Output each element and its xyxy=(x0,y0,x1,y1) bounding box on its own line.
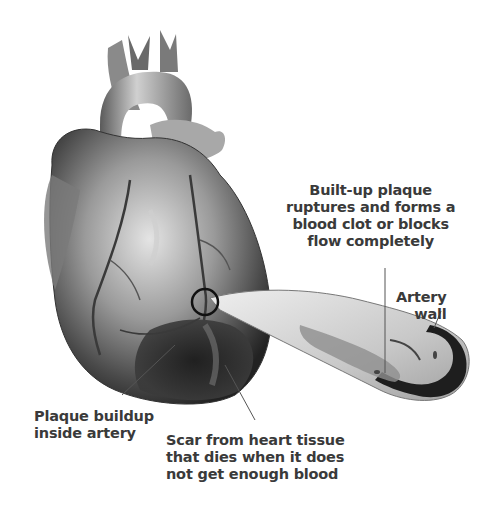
label-artery-wall: Artery wall xyxy=(396,289,447,323)
scar-region xyxy=(135,320,253,401)
heart xyxy=(44,129,271,404)
label-scar: Scar from heart tissue that dies when it… xyxy=(166,432,345,483)
label-plaque-rupture: Built-up plaque ruptures and forms a blo… xyxy=(286,182,455,250)
label-plaque-buildup: Plaque buildup inside artery xyxy=(34,408,154,442)
